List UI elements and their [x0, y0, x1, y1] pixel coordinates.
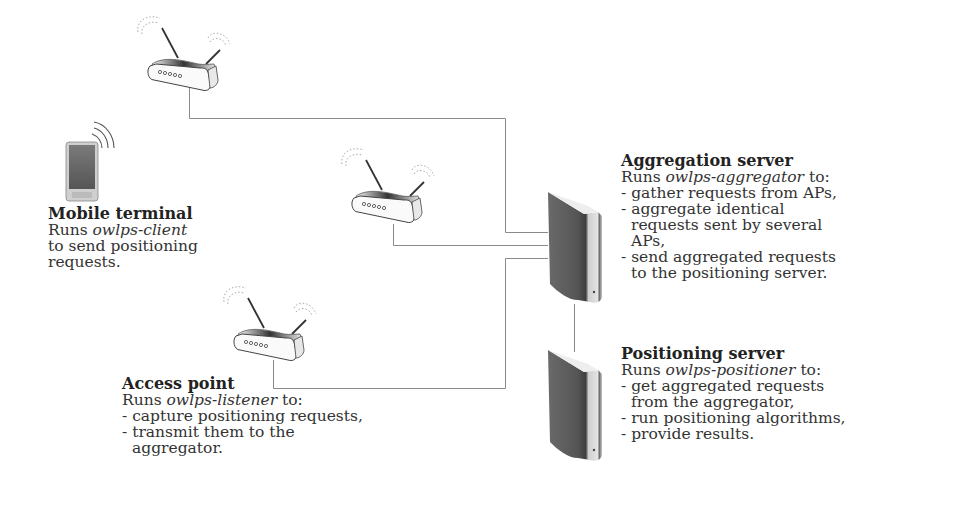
aggregation-server-label: Aggregation server Runs owlps-aggregator…: [621, 153, 837, 281]
positioning-server-title: Positioning server: [621, 346, 846, 362]
positioning-server-label: Positioning server Runs owlps-positioner…: [621, 346, 846, 442]
link-ap-middle-to-aggregator: [394, 224, 549, 246]
mobile-phone-icon: [66, 122, 114, 201]
wifi-router-icon: [138, 17, 230, 91]
access-point-label: Access point Runs owlps-listener to: - c…: [122, 376, 363, 456]
owlps-architecture-diagram: Mobile terminal Runs owlps-client to sen…: [0, 0, 964, 514]
mobile-terminal-label: Mobile terminal Runs owlps-client to sen…: [48, 206, 198, 270]
access-point-title: Access point: [122, 376, 363, 392]
server-tower-icon: [548, 192, 602, 303]
wifi-router-icon: [224, 287, 316, 361]
server-tower-icon: [548, 350, 602, 461]
wifi-router-icon: [342, 149, 434, 223]
aggregation-server-title: Aggregation server: [621, 153, 837, 169]
mobile-terminal-title: Mobile terminal: [48, 206, 198, 222]
link-ap-bottom-to-aggregator: [274, 259, 549, 389]
